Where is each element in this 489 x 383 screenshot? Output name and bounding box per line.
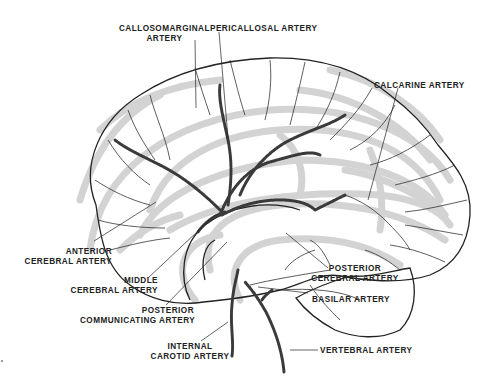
label-line: INTERNAL bbox=[148, 342, 232, 352]
brain-artery-diagram bbox=[0, 0, 489, 383]
label-line: POSTERIOR bbox=[80, 306, 194, 316]
label-line: COMMUNICATING ARTERY bbox=[80, 316, 194, 326]
label-line: ARTERY bbox=[119, 34, 210, 44]
label-line: PERICALLOSAL ARTERY bbox=[210, 24, 317, 34]
label-line: ANTERIOR bbox=[24, 247, 112, 257]
label-line: MIDDLE bbox=[70, 276, 158, 286]
label-pericallosal-artery: PERICALLOSAL ARTERY bbox=[210, 24, 317, 34]
label-line: CEREBRAL ARTERY bbox=[310, 274, 400, 284]
label-anterior-cerebral-artery: ANTERIOR CEREBRAL ARTERY bbox=[24, 247, 112, 267]
label-vertebral-artery: VERTEBRAL ARTERY bbox=[320, 346, 412, 356]
label-calcarine-artery: CALCARINE ARTERY bbox=[374, 81, 465, 91]
label-line: CAROTID ARTERY bbox=[148, 352, 232, 362]
label-line: CALCARINE ARTERY bbox=[374, 81, 465, 91]
label-posterior-cerebral-artery: POSTERIOR CEREBRAL ARTERY bbox=[310, 264, 400, 284]
label-line: CEREBRAL ARTERY bbox=[70, 286, 158, 296]
label-line: POSTERIOR bbox=[310, 264, 400, 274]
label-line: CEREBRAL ARTERY bbox=[24, 257, 112, 267]
label-middle-cerebral-artery: MIDDLE CEREBRAL ARTERY bbox=[70, 276, 158, 296]
label-posterior-communicating-artery: POSTERIOR COMMUNICATING ARTERY bbox=[80, 306, 194, 326]
corner-mark bbox=[1, 360, 3, 362]
label-internal-carotid-artery: INTERNAL CAROTID ARTERY bbox=[148, 342, 232, 362]
label-line: BASILAR ARTERY bbox=[312, 295, 390, 305]
label-line: VERTEBRAL ARTERY bbox=[320, 346, 412, 356]
label-basilar-artery: BASILAR ARTERY bbox=[312, 295, 390, 305]
label-callosomarginal-artery: CALLOSOMARGINAL ARTERY bbox=[119, 24, 210, 44]
label-line: CALLOSOMARGINAL bbox=[119, 24, 210, 34]
